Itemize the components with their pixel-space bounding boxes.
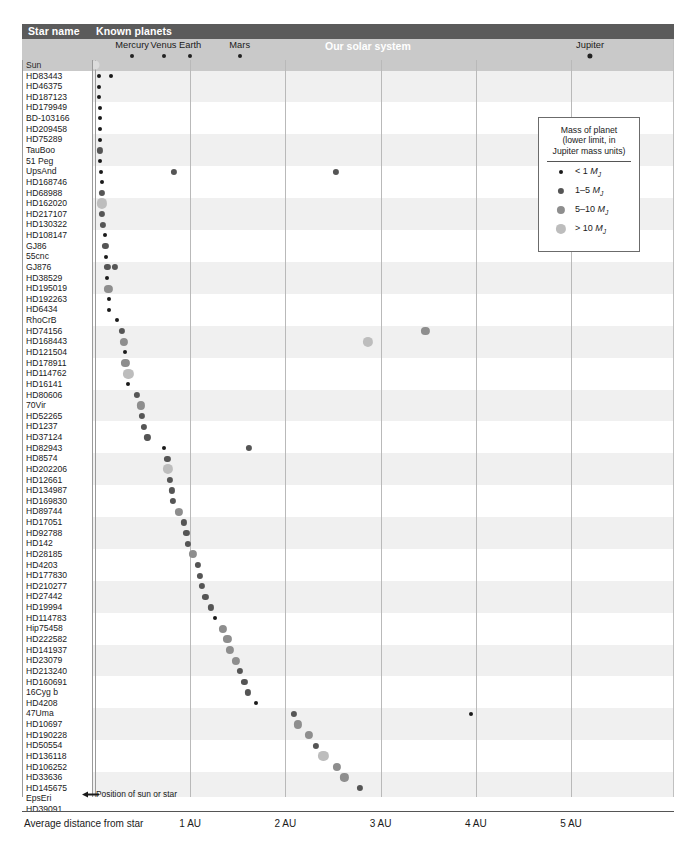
row-label: HD114783 xyxy=(26,613,66,624)
position-pointer-label: Position of sun or star xyxy=(96,789,177,799)
row-label: HD222582 xyxy=(26,634,67,645)
row-label: HD178911 xyxy=(26,358,66,369)
row-label: 16Cyg b xyxy=(26,687,58,698)
legend-entry-label: 5–10 MJ xyxy=(575,204,608,216)
legend-entry: > 10 MJ xyxy=(539,219,639,238)
legend-swatch-dot xyxy=(556,224,566,234)
star-name-header: Star name xyxy=(28,25,80,37)
planet-dot xyxy=(218,625,226,633)
legend-entry-label: < 1 MJ xyxy=(575,166,601,178)
planet-dot xyxy=(104,255,108,259)
legend-entry: 5–10 MJ xyxy=(539,200,639,219)
planet-dot xyxy=(333,168,339,174)
row-label: HD10697 xyxy=(26,719,62,730)
row-label: HD202206 xyxy=(26,464,67,475)
row-label-sun: Sun xyxy=(26,60,41,71)
solar-planet-dot-venus xyxy=(162,54,166,58)
row-label: HD23079 xyxy=(26,655,62,666)
planet-dot xyxy=(98,138,102,142)
legend-swatch-dot xyxy=(559,170,563,174)
row-label: HD168443 xyxy=(26,336,67,347)
gridline-3au xyxy=(381,60,382,797)
planet-dot xyxy=(144,434,150,440)
x-axis-title: Average distance from star xyxy=(24,818,143,829)
planet-dot xyxy=(98,127,102,131)
planet-dot xyxy=(103,233,107,237)
row-label: HD210277 xyxy=(26,581,67,592)
planet-dot xyxy=(126,382,130,386)
row-label: HD162020 xyxy=(26,198,67,209)
row-label: HD4203 xyxy=(26,560,58,571)
legend-entry: < 1 MJ xyxy=(539,162,639,181)
row-label: HD38529 xyxy=(26,273,62,284)
planet-dot xyxy=(254,701,258,705)
row-label: HD136118 xyxy=(26,751,66,762)
planet-dot xyxy=(246,445,252,451)
row-label: EpsEri xyxy=(26,793,51,804)
solar-planet-dot-mercury xyxy=(130,54,134,58)
row-band xyxy=(92,708,674,740)
row-label: HD52265 xyxy=(26,411,62,422)
row-label: 51 Peg xyxy=(26,156,53,167)
solar-planet-label-earth: Earth xyxy=(179,40,201,50)
row-label: HD50554 xyxy=(26,740,62,751)
planet-dot xyxy=(123,368,133,378)
planet-dot xyxy=(175,508,183,516)
row-label: HD4208 xyxy=(26,698,58,709)
row-label: HD121504 xyxy=(26,347,67,358)
solar-planet-dot-earth xyxy=(188,54,192,58)
planet-dot xyxy=(97,95,101,99)
row-label: HD68988 xyxy=(26,188,62,199)
row-label: HD106252 xyxy=(26,762,67,773)
row-label: HD46375 xyxy=(26,81,62,92)
row-label: HD141937 xyxy=(26,645,67,656)
gridline-2au xyxy=(285,60,286,797)
planet-dot xyxy=(97,85,101,89)
row-label: HD8574 xyxy=(26,453,58,464)
row-label: HD168746 xyxy=(26,177,67,188)
row-label: HD217107 xyxy=(26,209,67,220)
legend-box: Mass of planet (lower limit, in Jupiter … xyxy=(538,117,640,252)
known-planets-header: Known planets xyxy=(96,25,172,37)
row-label: HD209458 xyxy=(26,124,67,135)
planet-dot xyxy=(140,424,146,430)
planet-dot xyxy=(109,74,113,78)
row-label: HD145675 xyxy=(26,783,67,794)
sun-marker xyxy=(92,61,100,70)
solar-system-label: Our solar system xyxy=(325,40,411,52)
row-label: HD33636 xyxy=(26,772,62,783)
x-axis-tick-label: 5 AU xyxy=(560,818,582,829)
planet-dot xyxy=(197,572,203,578)
planet-dot xyxy=(102,243,108,249)
row-label: HD190228 xyxy=(26,730,67,741)
x-axis-line xyxy=(22,811,674,812)
planet-dot xyxy=(121,359,129,367)
row-label: HD80606 xyxy=(26,390,62,401)
plot-right-border xyxy=(673,39,674,797)
planet-dot xyxy=(99,190,105,196)
row-band xyxy=(92,71,674,103)
legend-swatch-dot xyxy=(557,206,565,214)
x-axis-tick-label: 3 AU xyxy=(370,818,392,829)
row-label: HD177830 xyxy=(26,570,67,581)
planet-dot xyxy=(245,689,251,695)
row-label: HD134987 xyxy=(26,485,67,496)
row-label: HD16141 xyxy=(26,379,62,390)
planet-dot xyxy=(313,743,319,749)
legend-entries: < 1 MJ1–5 MJ5–10 MJ> 10 MJ xyxy=(539,162,639,238)
row-label: HD114762 xyxy=(26,368,66,379)
row-label: HD28185 xyxy=(26,549,62,560)
exoplanet-distance-chart: Star name Known planets Our solar system… xyxy=(0,0,694,846)
legend-entry-label: 1–5 MJ xyxy=(575,185,603,197)
row-band xyxy=(92,772,674,797)
header-bar: Star name Known planets xyxy=(22,24,674,39)
planet-dot xyxy=(115,318,119,322)
row-label: HD74156 xyxy=(26,326,62,337)
row-band xyxy=(92,453,674,485)
x-axis-tick-label: 4 AU xyxy=(465,818,487,829)
row-label: HD130322 xyxy=(26,219,67,230)
row-label: HD142 xyxy=(26,538,53,549)
planet-dot xyxy=(97,74,101,78)
planet-dot xyxy=(171,168,177,174)
planet-dot xyxy=(107,308,111,312)
